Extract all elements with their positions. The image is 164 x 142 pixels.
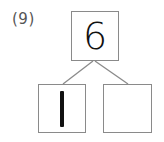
whole-number: 6 xyxy=(83,14,107,58)
part-right-answer-box[interactable] xyxy=(103,84,152,133)
whole-number-box: 6 xyxy=(71,11,119,61)
part-left-box xyxy=(38,84,86,133)
number-bond-problem: (9) 6 xyxy=(0,0,164,142)
part-left-number-one xyxy=(60,91,64,127)
